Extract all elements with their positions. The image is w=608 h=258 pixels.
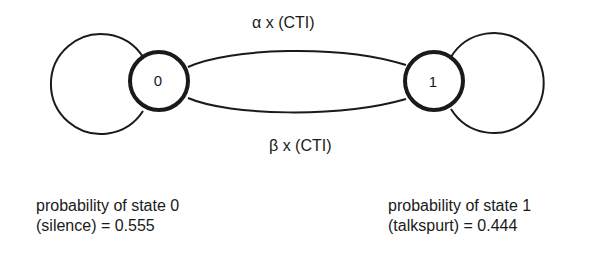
state-0-label: 0 <box>154 72 162 89</box>
state-0-probability-line2: (silence) = 0.555 <box>36 216 179 236</box>
state-0-probability-line1: probability of state 0 <box>36 196 179 216</box>
transition-1-to-0 <box>188 98 406 112</box>
state-1-label: 1 <box>429 73 437 90</box>
alpha-transition-label: α x (CTI) <box>252 14 315 32</box>
state-1-probability-line2: (talkspurt) = 0.444 <box>388 216 531 236</box>
beta-transition-label: β x (CTI) <box>269 137 332 155</box>
state-1-probability-line1: probability of state 1 <box>388 196 531 216</box>
transition-0-to-1 <box>188 51 406 67</box>
state-1-probability: probability of state 1 (talkspurt) = 0.4… <box>388 196 531 236</box>
state-0-probability: probability of state 0 (silence) = 0.555 <box>36 196 179 236</box>
